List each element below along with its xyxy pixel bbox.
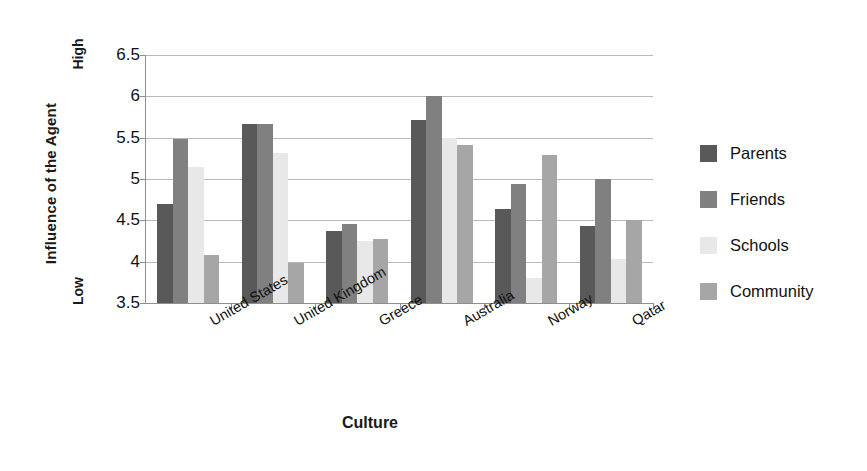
y-tick-mark xyxy=(140,138,146,139)
legend-label: Community xyxy=(730,282,813,301)
x-axis-title: Culture xyxy=(0,414,740,432)
y-tick-label: 6 xyxy=(100,87,140,104)
bar xyxy=(626,220,642,303)
legend-swatch-community xyxy=(700,283,717,300)
gridline xyxy=(146,179,653,180)
y-tick-mark xyxy=(140,179,146,180)
y-axis-high-label: High xyxy=(70,32,86,76)
legend-swatch-friends xyxy=(700,191,717,208)
y-tick-mark xyxy=(140,96,146,97)
y-tick-mark xyxy=(140,262,146,263)
bar xyxy=(157,204,173,303)
legend-label: Parents xyxy=(730,144,787,163)
y-tick-mark xyxy=(140,55,146,56)
y-tick-label: 4.5 xyxy=(100,211,140,228)
bar xyxy=(204,255,220,303)
gridline xyxy=(146,96,653,97)
y-tick-mark xyxy=(140,303,146,304)
gridline xyxy=(146,55,653,56)
y-tick-label: 5 xyxy=(100,170,140,187)
x-axis-label: Norway xyxy=(545,315,553,329)
bar xyxy=(611,259,627,303)
x-axis-label: Qatar xyxy=(629,315,637,329)
y-tick-mark xyxy=(140,220,146,221)
bar xyxy=(426,96,442,303)
x-axis-category-labels: United StatesUnited KingdomGreeceAustral… xyxy=(146,311,653,401)
bar xyxy=(526,278,542,303)
y-tick-label: 5.5 xyxy=(100,129,140,146)
x-axis-label: Greece xyxy=(376,315,384,329)
bar xyxy=(257,124,273,303)
legend-item: Schools xyxy=(700,222,865,268)
bar-chart: Influence of the Agent High Low 6.565.55… xyxy=(0,0,867,471)
x-axis-label: Australia xyxy=(460,315,468,329)
bar xyxy=(188,167,204,303)
legend-label: Friends xyxy=(730,190,785,209)
plot-area xyxy=(146,55,653,303)
bar xyxy=(457,145,473,303)
y-axis-title: Influence of the Agent xyxy=(42,74,59,294)
bar xyxy=(442,138,458,303)
bar xyxy=(511,184,527,303)
gridline xyxy=(146,138,653,139)
bar xyxy=(411,120,427,303)
legend-label: Schools xyxy=(730,236,789,255)
legend-swatch-parents xyxy=(700,145,717,162)
bar xyxy=(288,263,304,303)
gridline xyxy=(146,220,653,221)
legend-item: Parents xyxy=(700,130,865,176)
y-tick-label: 3.5 xyxy=(100,294,140,311)
bar xyxy=(242,124,258,303)
chart-legend: ParentsFriendsSchoolsCommunity xyxy=(700,130,865,314)
legend-item: Friends xyxy=(700,176,865,222)
x-axis-label: United States xyxy=(207,315,215,329)
legend-swatch-schools xyxy=(700,237,717,254)
gridline xyxy=(146,262,653,263)
y-tick-label: 4 xyxy=(100,253,140,270)
legend-item: Community xyxy=(700,268,865,314)
y-tick-label: 6.5 xyxy=(100,46,140,63)
y-axis-tick-labels: 6.565.554.543.5 xyxy=(96,0,140,471)
bar xyxy=(542,155,558,303)
x-axis-label: United Kingdom xyxy=(291,315,299,329)
bar xyxy=(595,179,611,303)
y-axis-low-label: Low xyxy=(70,269,86,313)
bar xyxy=(173,139,189,303)
